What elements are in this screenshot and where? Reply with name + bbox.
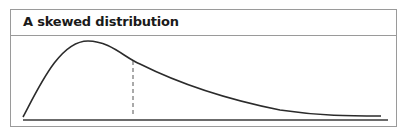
skewed-distribution-plot [0, 0, 408, 133]
distribution-curve [23, 41, 381, 117]
